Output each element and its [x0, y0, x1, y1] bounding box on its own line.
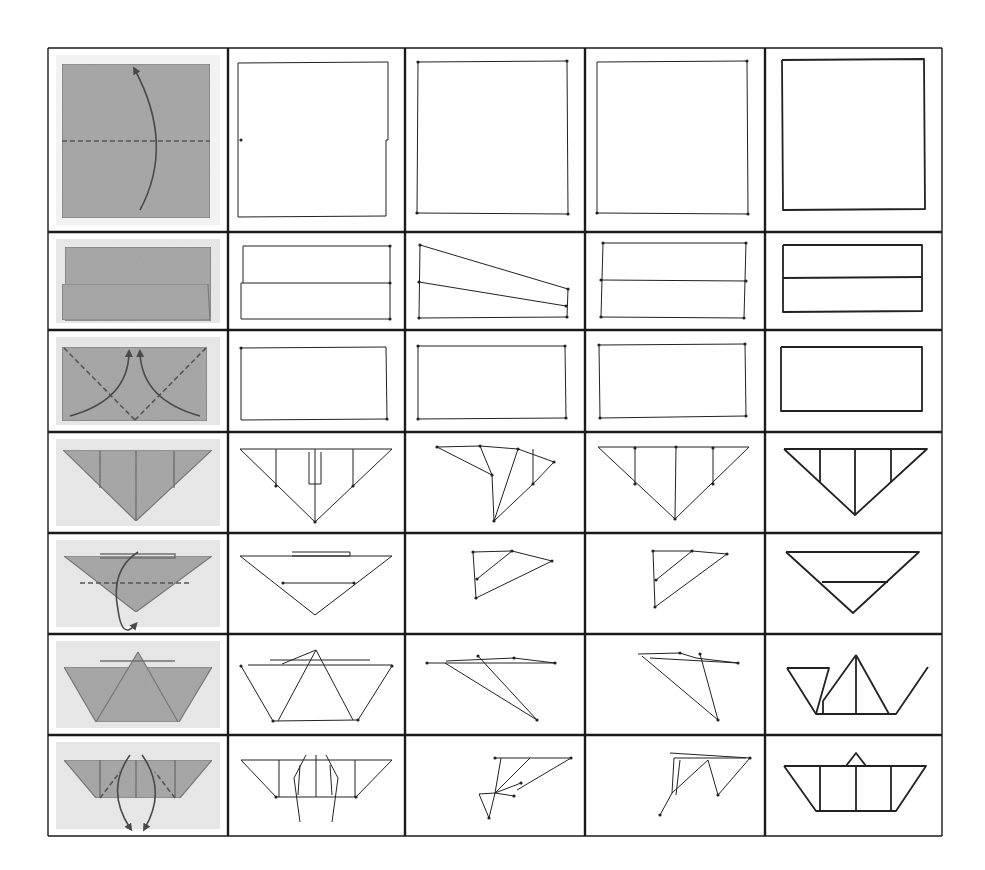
edge-line — [784, 766, 926, 811]
vertex-dot — [633, 482, 636, 485]
edge-line — [787, 667, 928, 714]
vertex-dot — [475, 577, 478, 580]
vertex-dot — [601, 241, 604, 244]
step-5-trace-2 — [471, 549, 553, 599]
edge-line — [479, 793, 495, 818]
vertex-dot — [598, 416, 601, 419]
edge-line — [330, 765, 332, 795]
edge-line — [597, 61, 748, 214]
edge-line — [473, 551, 552, 598]
edge-line — [650, 658, 738, 663]
step-5-trace-3 — [651, 549, 728, 608]
vertex-dot — [519, 781, 522, 784]
edge-line — [419, 282, 566, 306]
edge-line — [437, 446, 554, 521]
vertex-dot — [435, 445, 438, 448]
vertex-dot — [388, 281, 391, 284]
step-1-trace-3 — [595, 59, 749, 215]
step-6-result — [787, 655, 928, 714]
edge-line — [238, 62, 388, 217]
vertex-dot — [743, 342, 746, 345]
step-3-trace-1 — [239, 346, 388, 420]
vertex-dot — [493, 756, 496, 759]
vertex-dot — [281, 581, 284, 584]
vertex-dot — [416, 417, 419, 420]
vertex-dot — [658, 813, 661, 816]
vertex-dot — [651, 549, 654, 552]
vertex-dot — [674, 445, 677, 448]
vertex-dot — [563, 344, 566, 347]
vertex-dot — [566, 212, 569, 215]
vertex-dot — [425, 661, 428, 664]
vertex-dot — [476, 654, 479, 657]
step-2-trace-3 — [599, 241, 747, 319]
vertex-dot — [510, 549, 513, 552]
edge-line — [783, 277, 922, 278]
step-2-result — [783, 245, 922, 312]
edge-line — [477, 551, 512, 579]
edge-line — [495, 793, 514, 796]
vertex-dot — [633, 446, 636, 449]
vertex-dot — [388, 244, 391, 247]
vertex-dot — [388, 317, 391, 320]
edge-line — [782, 59, 925, 210]
vertex-dot — [351, 484, 354, 487]
vertex-dot — [744, 279, 747, 282]
vertex-dot — [418, 243, 421, 246]
step-6-trace-2 — [425, 654, 556, 721]
vertex-dot — [471, 550, 474, 553]
step-4-trace-2 — [435, 444, 555, 522]
vertex-dot — [597, 343, 600, 346]
vertex-dot — [690, 549, 693, 552]
edge-line — [675, 447, 676, 519]
vertex-dot — [673, 517, 676, 520]
edge-line — [417, 61, 568, 214]
edge-line — [856, 655, 889, 714]
step-5-trace-1 — [240, 552, 392, 615]
edge-line — [478, 656, 537, 720]
paper-shape — [62, 284, 210, 320]
vertex-dot — [565, 59, 568, 62]
vertex-dot — [354, 795, 357, 798]
edge-line — [241, 666, 392, 721]
edge-line — [446, 658, 555, 663]
step-4-trace-1 — [240, 449, 392, 524]
vertex-dot — [239, 664, 242, 667]
edge-line — [241, 246, 390, 319]
vertex-dot — [565, 315, 568, 318]
illustration-step-2 — [62, 247, 211, 321]
edge-line — [676, 760, 680, 795]
paper-shape — [62, 347, 207, 421]
edge-line — [282, 650, 316, 664]
edge-line — [240, 556, 392, 615]
vertex-dot — [716, 793, 719, 796]
step-1-result — [782, 59, 925, 210]
vertex-dot — [564, 416, 567, 419]
step-7-trace-1 — [241, 755, 392, 822]
step-2-trace-2 — [417, 243, 569, 319]
edge-line — [642, 656, 718, 720]
edge-line — [495, 758, 571, 790]
vertex-dot — [564, 304, 567, 307]
vertex-dot — [416, 60, 419, 63]
edge-line — [480, 446, 492, 475]
vertex-dot — [356, 718, 359, 721]
step-1-trace-2 — [415, 59, 569, 215]
vertex-dot — [417, 280, 420, 283]
vertex-dot — [474, 596, 477, 599]
step-7-trace-3 — [658, 753, 751, 817]
step-7-result — [784, 753, 926, 811]
vertex-dot — [416, 344, 419, 347]
vertex-dot — [746, 212, 749, 215]
vertex-dot — [274, 795, 277, 798]
vertex-dot — [516, 447, 519, 450]
vertex-dot — [390, 664, 393, 667]
vertex-dot — [725, 552, 728, 555]
vertex-dot — [512, 794, 515, 797]
step-5-result — [786, 552, 919, 613]
vertex-dot — [512, 656, 515, 659]
vertex-dot — [744, 414, 747, 417]
vertex-dot — [352, 581, 355, 584]
edge-line — [240, 449, 392, 522]
edge-line — [660, 793, 672, 815]
